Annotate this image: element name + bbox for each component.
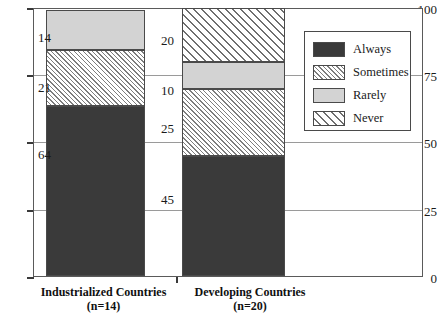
x-category-label-line2: (n=20) bbox=[170, 299, 330, 313]
bar-segment-always[interactable] bbox=[182, 156, 285, 276]
legend-label-rarely: Rarely bbox=[353, 89, 386, 102]
legend-label-sometimes: Sometimes bbox=[353, 66, 409, 79]
bar-segment-rarely[interactable] bbox=[46, 10, 145, 50]
bar-segment-sometimes[interactable] bbox=[182, 89, 285, 156]
bar-segment-never[interactable] bbox=[182, 8, 285, 62]
legend-swatch-always-icon bbox=[313, 42, 345, 57]
segment-value-always-developing: 45 bbox=[161, 193, 174, 206]
segment-value-sometimes-developing: 25 bbox=[161, 122, 174, 135]
segment-value-always-industrialized: 64 bbox=[38, 148, 51, 161]
x-category-label-line1: Developing Countries bbox=[170, 285, 330, 299]
legend-item-rarely[interactable]: Rarely bbox=[313, 86, 386, 104]
legend: Always Sometimes Rarely Never bbox=[304, 31, 411, 131]
legend-item-sometimes[interactable]: Sometimes bbox=[313, 63, 409, 81]
legend-swatch-sometimes-icon bbox=[313, 65, 345, 80]
stacked-bar-chart: 100 75 50 25 0 bbox=[0, 0, 437, 317]
x-category-label-developing: Developing Countries (n=20) bbox=[170, 285, 330, 313]
x-tick-mark-between-bars bbox=[176, 277, 178, 283]
legend-swatch-rarely-icon bbox=[313, 88, 345, 103]
plot-area: Always Sometimes Rarely Never bbox=[33, 8, 423, 277]
bar-developing-countries[interactable] bbox=[182, 8, 285, 276]
legend-label-never: Never bbox=[353, 112, 384, 125]
bar-segment-always[interactable] bbox=[46, 106, 145, 276]
legend-label-always: Always bbox=[353, 43, 391, 56]
segment-value-sometimes-industrialized: 21 bbox=[38, 81, 51, 94]
bar-industrialized-countries[interactable] bbox=[46, 10, 145, 276]
x-category-label-line1: Industrialized Countries bbox=[16, 285, 191, 299]
legend-item-always[interactable]: Always bbox=[313, 40, 391, 58]
bar-segment-sometimes[interactable] bbox=[46, 50, 145, 106]
legend-item-never[interactable]: Never bbox=[313, 109, 384, 127]
x-category-label-industrialized: Industrialized Countries (n=14) bbox=[16, 285, 191, 313]
segment-value-never-developing: 20 bbox=[161, 34, 174, 47]
y-tick-mark-0 bbox=[27, 277, 34, 279]
legend-swatch-never-icon bbox=[313, 111, 345, 126]
segment-value-rarely-industrialized: 14 bbox=[38, 31, 51, 44]
x-category-label-line2: (n=14) bbox=[16, 299, 191, 313]
bar-segment-rarely[interactable] bbox=[182, 62, 285, 89]
segment-value-rarely-developing: 10 bbox=[161, 84, 174, 97]
